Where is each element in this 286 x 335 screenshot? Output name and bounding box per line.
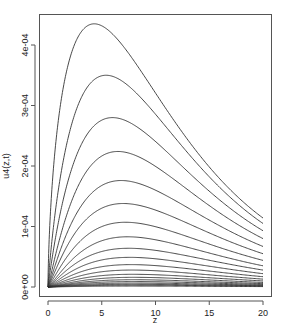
series-line <box>48 286 263 287</box>
x-tick-label: 15 <box>204 308 214 318</box>
x-tick-label: 0 <box>45 308 50 318</box>
y-tick-label: 1e-04 <box>20 215 30 238</box>
series-line <box>48 24 263 287</box>
x-tick-label: 5 <box>99 308 104 318</box>
y-tick-label: 4e-04 <box>20 33 30 56</box>
plot-frame <box>40 15 272 297</box>
series-line <box>48 118 263 287</box>
y-tick-label: 3e-04 <box>20 94 30 117</box>
y-tick-label: 0e+00 <box>20 274 30 299</box>
line-chart: 05101520 0e+001e-042e-043e-044e-04 z u4(… <box>0 0 286 335</box>
y-tick-label: 2e-04 <box>20 154 30 177</box>
y-axis-label: u4(z,t) <box>1 153 11 179</box>
y-axis: 0e+001e-042e-043e-044e-04 <box>20 33 35 299</box>
curve-group <box>48 24 263 287</box>
x-axis-label: z <box>153 315 158 325</box>
x-tick-label: 20 <box>258 308 268 318</box>
